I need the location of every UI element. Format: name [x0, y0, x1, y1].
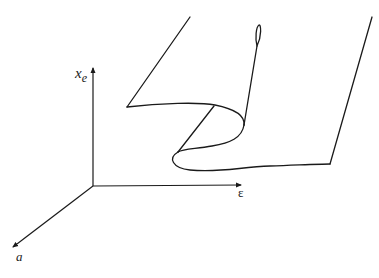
folded-surface — [127, 17, 372, 171]
surface-upper-sheet-edge — [127, 103, 244, 125]
surface-top-loop — [256, 25, 261, 46]
vertical-axis-label: xe — [75, 66, 87, 84]
surface-right-edge — [330, 17, 372, 164]
depth-axis-label: a — [16, 250, 23, 263]
surface-fold-line — [178, 106, 214, 152]
surface-lower-sheet-edge — [173, 152, 330, 171]
axes — [13, 68, 241, 247]
diagram-canvas — [0, 0, 379, 278]
horizontal-axis-epsilon — [93, 185, 241, 186]
depth-axis-a — [13, 186, 93, 247]
surface-back-fold-edge — [244, 46, 257, 125]
surface-left-edge — [127, 17, 190, 107]
horizontal-axis-label: ε — [238, 186, 243, 199]
